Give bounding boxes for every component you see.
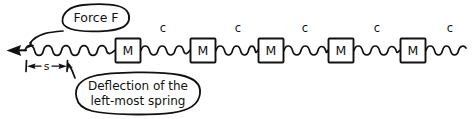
force-callout-label: Force F <box>74 10 119 25</box>
force-callout-leader <box>27 31 64 49</box>
mass-block-1-label: M <box>123 43 134 58</box>
spring-2-coil <box>216 46 258 55</box>
deflection-leader-arrowhead <box>67 62 73 70</box>
spring-4-label: c <box>374 21 380 35</box>
spring-2: c <box>216 21 258 55</box>
deflection-callout-leader <box>67 62 75 79</box>
mass-block-5: M <box>401 39 426 63</box>
mass-block-2: M <box>191 39 216 63</box>
mass-block-2-label: M <box>198 43 209 58</box>
mass-spring-chain-diagram: M c M c M c M <box>0 0 472 119</box>
spring-5-label: c <box>447 21 453 35</box>
dimension-left-tick <box>26 61 27 72</box>
force-callout: Force F <box>62 4 129 31</box>
mass-block-4-label: M <box>336 43 347 58</box>
spring-5: c <box>426 21 466 55</box>
deflection-dimension-s: s <box>26 60 68 73</box>
spring-1: c <box>141 21 190 55</box>
force-arrow <box>7 45 27 56</box>
spring-0 <box>25 46 115 56</box>
deflection-callout: Deflection of the left-most spring <box>76 72 200 114</box>
deflection-callout-line-1: Deflection of the <box>88 79 188 93</box>
diagram-canvas: M c M c M c M <box>0 0 472 119</box>
spring-0-coil <box>25 46 115 56</box>
spring-2-label: c <box>235 21 241 35</box>
mass-block-3: M <box>259 39 284 63</box>
deflection-callout-line-2: left-most spring <box>91 94 186 108</box>
spring-4-coil <box>354 46 400 55</box>
force-leader-line <box>30 31 63 43</box>
dimension-right-arrowhead <box>59 63 68 69</box>
mass-block-3-label: M <box>266 43 277 58</box>
force-arrow-head <box>7 45 22 56</box>
spring-3: c <box>284 21 328 55</box>
spring-3-label: c <box>302 21 308 35</box>
spring-5-coil <box>426 46 466 55</box>
mass-block-1: M <box>116 39 141 63</box>
spring-4: c <box>354 21 400 55</box>
dimension-label-s: s <box>44 60 50 73</box>
spring-1-coil <box>141 46 190 55</box>
mass-block-5-label: M <box>408 43 419 58</box>
spring-1-label: c <box>160 21 166 35</box>
spring-3-coil <box>284 46 328 55</box>
mass-block-4: M <box>329 39 354 63</box>
